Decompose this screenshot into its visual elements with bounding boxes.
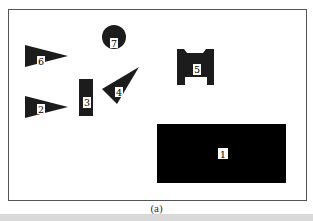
shape-4-label: 4 [116, 87, 122, 98]
shape-7-circle: 7 [102, 25, 126, 49]
shape-6-label: 6 [38, 56, 44, 67]
diagram-canvas: 1 6 2 3 4 7 [0, 0, 313, 221]
figure-caption: (a) [0, 202, 313, 214]
shape-3-rectangle: 3 [79, 79, 93, 116]
shape-1-rectangle: 1 [157, 124, 286, 183]
figure: 1 6 2 3 4 7 [0, 0, 313, 221]
shape-2-label: 2 [38, 104, 44, 115]
shape-5-label: 5 [194, 64, 200, 75]
shape-7-label: 7 [111, 38, 117, 49]
shape-1-label: 1 [220, 149, 226, 160]
bottom-band [0, 214, 313, 221]
shape-3-label: 3 [84, 97, 90, 108]
